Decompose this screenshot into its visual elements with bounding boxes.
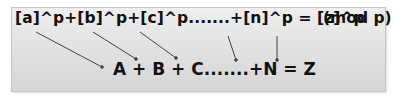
bottom-equation: A + B + C.......+N = Z <box>113 59 316 79</box>
arrow-n-to-N <box>228 36 236 60</box>
arrow-a-to-A <box>36 32 102 67</box>
mapping-arrows <box>0 0 395 96</box>
arrow-b-to-B <box>93 32 136 59</box>
arrow-c-to-C <box>140 32 176 58</box>
